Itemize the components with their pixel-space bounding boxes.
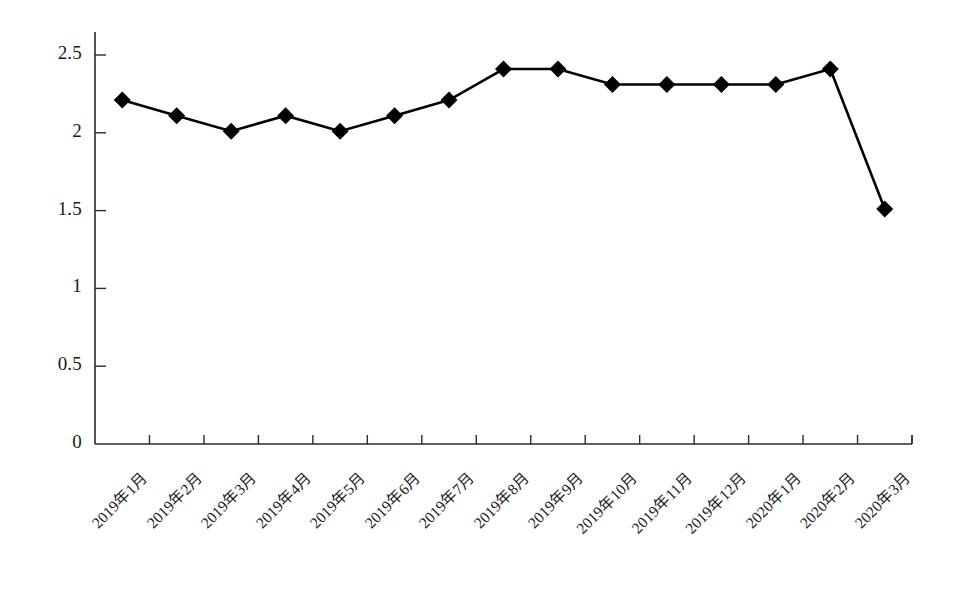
data-point-marker (332, 123, 349, 140)
data-point-marker (168, 107, 185, 124)
chart-axes (95, 32, 912, 444)
line-chart: 00.511.522.5 2019年1月2019年2月2019年3月2019年4… (0, 0, 961, 591)
data-point-marker (114, 92, 131, 109)
data-point-marker (822, 61, 839, 78)
data-point-markers (114, 61, 894, 218)
y-axis-tick-label: 0.5 (58, 353, 82, 375)
data-point-marker (604, 76, 621, 93)
data-point-marker (713, 76, 730, 93)
y-axis-tick-label: 2 (72, 120, 82, 142)
series-line (122, 69, 885, 209)
data-point-marker (767, 76, 784, 93)
data-point-marker (876, 201, 893, 218)
data-point-marker (495, 61, 512, 78)
y-axis-tick-label: 1 (72, 275, 82, 297)
y-axis-tick-label: 1.5 (58, 198, 82, 220)
data-point-marker (277, 107, 294, 124)
data-point-marker (441, 92, 458, 109)
data-point-marker (658, 76, 675, 93)
data-series-line (122, 69, 885, 209)
data-point-marker (386, 107, 403, 124)
y-axis-tick-label: 2.5 (58, 42, 82, 64)
data-point-marker (223, 123, 240, 140)
data-point-marker (549, 61, 566, 78)
y-axis-tick-label: 0 (72, 431, 82, 453)
